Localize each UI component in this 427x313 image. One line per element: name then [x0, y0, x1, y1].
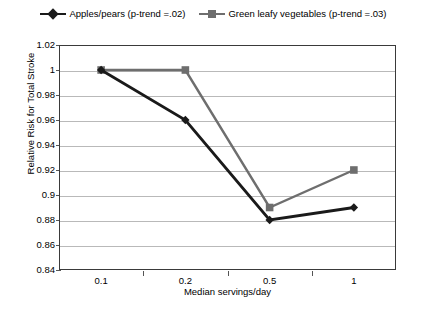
legend-marker: [208, 10, 216, 18]
legend-marker: [48, 8, 59, 19]
y-axis-ticks: 1.0210.980.960.940.920.90.880.860.84: [3, 45, 55, 270]
gridline: [60, 171, 395, 172]
gridline: [60, 71, 395, 72]
x-axis-ticks: 0.10.20.51: [59, 271, 396, 287]
x-axis-tick-mark: [228, 271, 229, 276]
gridline: [60, 121, 395, 122]
y-axis-tick-label: 0.92: [7, 165, 55, 175]
square-marker-icon: [199, 8, 225, 19]
gridline: [60, 96, 395, 97]
y-axis-tick-label: 0.88: [7, 215, 55, 225]
x-axis-tick-label: 0.2: [179, 275, 192, 286]
y-axis-tick-label: 0.98: [7, 90, 55, 100]
y-axis-tick-label: 0.84: [7, 265, 55, 275]
y-axis-tick-label: 0.9: [7, 190, 55, 200]
x-axis-tick-label: 1: [351, 275, 356, 286]
legend-label-green-leafy: Green leafy vegetables (p-trend =.03): [228, 8, 386, 19]
y-axis-tick-label: 1: [7, 65, 55, 75]
x-axis-tick-mark: [312, 271, 313, 276]
diamond-marker-icon: [40, 8, 66, 19]
y-axis-tick-label: 0.96: [7, 115, 55, 125]
y-axis-tick-label: 0.94: [7, 140, 55, 150]
gridline: [60, 196, 395, 197]
y-axis-tick-label: 0.86: [7, 240, 55, 250]
legend-label-apples-pears: Apples/pears (p-trend =.02): [69, 8, 185, 19]
legend-item-apples-pears: Apples/pears (p-trend =.02): [40, 8, 185, 19]
chart-figure: Apples/pears (p-trend =.02) Green leafy …: [0, 0, 427, 313]
y-axis-tick-label: 1.02: [7, 40, 55, 50]
gridlines: [60, 46, 395, 269]
legend-item-green-leafy: Green leafy vegetables (p-trend =.03): [199, 8, 386, 19]
x-axis-tick-label: 0.1: [95, 275, 108, 286]
gridline: [60, 146, 395, 147]
x-axis-tick-label: 0.5: [263, 275, 276, 286]
x-axis-title: Median servings/day: [59, 286, 396, 297]
gridline: [60, 246, 395, 247]
chart-legend: Apples/pears (p-trend =.02) Green leafy …: [0, 8, 427, 19]
x-axis-tick-mark: [143, 271, 144, 276]
plot-area: [59, 45, 396, 270]
gridline: [60, 221, 395, 222]
